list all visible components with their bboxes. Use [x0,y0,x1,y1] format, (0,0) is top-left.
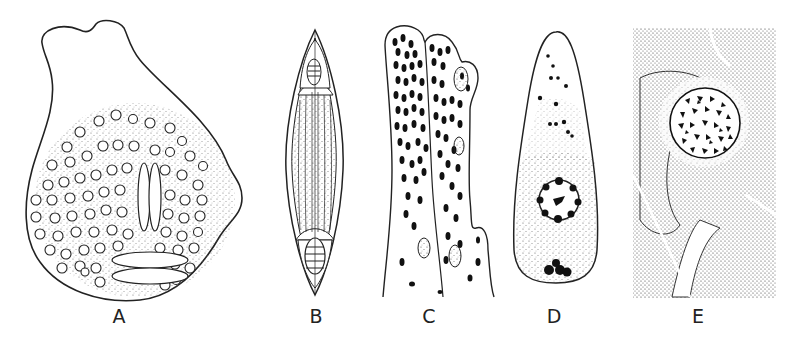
panel-e-tissue [633,28,776,298]
panel-b-cell [286,30,343,295]
panel-label-b: B [301,305,331,327]
panel-d-cell [514,32,598,283]
panel-label-c: C [414,305,444,327]
panel-c-cells [383,26,494,297]
panel-label-a: A [104,305,134,327]
figure-illustration [0,0,796,338]
panel-label-d: D [539,305,569,327]
panel-a-cell [26,21,242,301]
panel-label-e: E [683,305,713,327]
